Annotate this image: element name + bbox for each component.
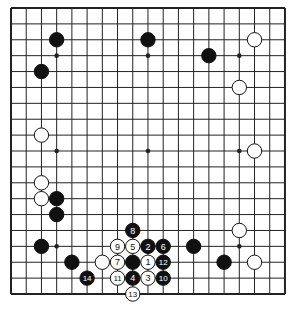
black-stone: 2 [141,239,155,253]
move-number: 14 [83,274,92,283]
white-stone [247,255,261,269]
black-stone [49,33,63,47]
move-number: 8 [130,226,135,236]
white-stone: 5 [126,239,140,253]
black-stone [217,255,231,269]
star-point [237,53,242,58]
white-stone [232,223,246,237]
move-number: 6 [161,242,166,252]
black-stone: 14 [80,271,94,285]
white-stone [232,80,246,94]
white-stone [34,128,48,142]
star-point [146,149,151,154]
black-stone: 8 [126,223,140,237]
star-point [237,149,242,154]
white-stone [247,33,261,47]
white-stone [34,176,48,190]
black-stone [126,255,140,269]
star-point [54,53,59,58]
white-stone: 3 [141,271,155,285]
move-number: 10 [159,274,168,283]
white-stone: 1 [141,255,155,269]
black-stone [141,33,155,47]
white-stone [95,255,109,269]
black-stone [49,207,63,221]
white-stone: 7 [110,255,124,269]
move-number: 11 [113,274,122,283]
move-number: 4 [130,273,135,283]
white-stone: 11 [110,271,124,285]
white-stone [247,144,261,158]
move-number: 7 [115,257,120,267]
black-stone [186,239,200,253]
black-stone: 10 [156,271,170,285]
black-stone [34,239,48,253]
star-point [237,244,242,249]
move-number: 9 [115,242,120,252]
black-stone [202,48,216,62]
black-stone: 12 [156,255,170,269]
move-number: 13 [128,290,137,299]
star-point [54,149,59,154]
go-board: 1234567891011121314 [0,0,295,309]
black-stone [49,191,63,205]
star-point [146,53,151,58]
black-stone [65,255,79,269]
move-number: 5 [130,242,135,252]
star-point [54,244,59,249]
move-number: 1 [145,257,150,267]
black-stone [34,64,48,78]
move-number: 3 [145,273,150,283]
white-stone [34,191,48,205]
move-number: 12 [159,258,168,267]
black-stone: 6 [156,239,170,253]
move-number: 2 [145,242,150,252]
white-stone: 9 [110,239,124,253]
black-stone: 4 [126,271,140,285]
white-stone: 13 [126,287,140,301]
